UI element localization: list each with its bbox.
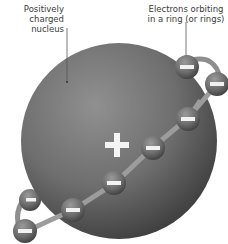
- nucleus-label: Positively charged nucleus: [0, 4, 64, 34]
- electron: [13, 219, 37, 243]
- nucleus-label-line: nucleus: [0, 24, 64, 34]
- electron: [141, 136, 165, 160]
- electrons-label: Electrons orbiting in a ring (or rings): [136, 4, 228, 24]
- electron: [205, 72, 228, 96]
- electron: [175, 55, 199, 79]
- electrons-label-line: Electrons orbiting: [136, 4, 228, 14]
- nucleus-label-line: Positively: [0, 4, 64, 14]
- nucleus-label-line: charged: [0, 14, 64, 24]
- atom-diagram: Positively charged nucleus Electrons orb…: [0, 0, 228, 244]
- electron: [176, 107, 200, 131]
- electron: [102, 171, 126, 195]
- electron: [61, 198, 85, 222]
- diagram-canvas: [0, 0, 228, 244]
- electrons-label-line: in a ring (or rings): [136, 14, 228, 24]
